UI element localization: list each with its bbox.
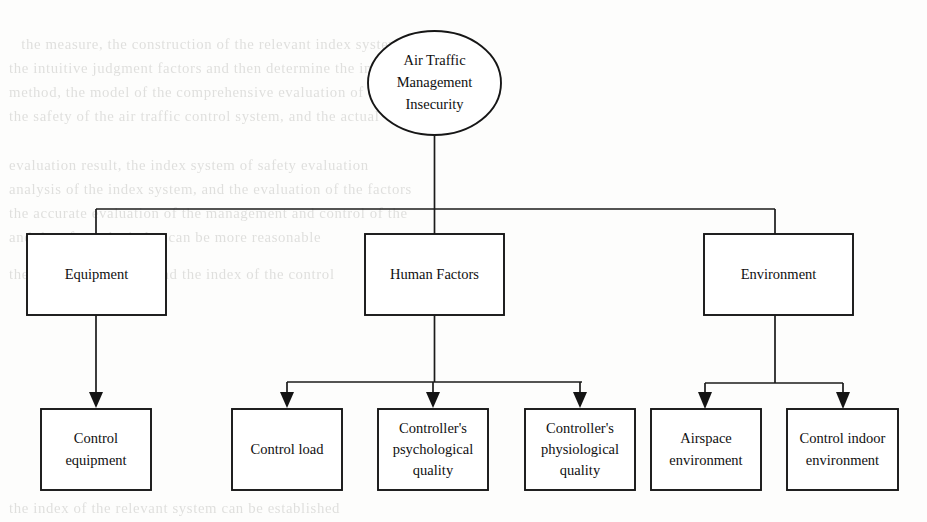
node-root-air-traffic-management-insecurity[interactable] (368, 31, 501, 135)
node-control-load[interactable] (232, 409, 342, 490)
arrowhead-airspace-environment (698, 392, 712, 409)
node-human-factors[interactable] (365, 234, 504, 315)
node-environment[interactable] (704, 234, 853, 315)
node-airspace-environment[interactable] (651, 409, 761, 490)
arrowhead-control-equipment (89, 392, 103, 408)
node-controller-psychological-quality[interactable] (378, 409, 488, 490)
node-control-indoor-environment[interactable] (787, 409, 898, 490)
diagram-canvas (0, 0, 927, 522)
node-controller-physiological-quality[interactable] (525, 409, 635, 490)
arrowhead-control-indoor-environment (836, 392, 850, 409)
arrowhead-controller-physiological-quality (573, 392, 587, 408)
diagram-page: the measure, the construction of the rel… (0, 0, 927, 522)
node-equipment[interactable] (27, 234, 166, 315)
arrowhead-control-load (280, 392, 294, 408)
node-control-equipment[interactable] (41, 409, 151, 490)
arrowhead-controller-psychological-quality (426, 392, 440, 408)
